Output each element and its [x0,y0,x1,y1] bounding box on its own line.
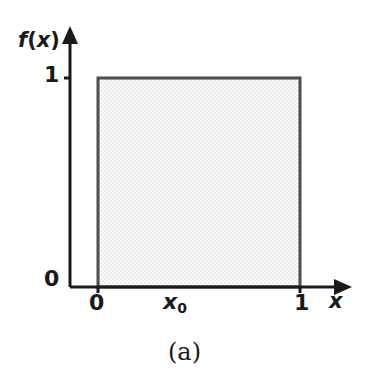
x-tick-label-1: 1 [294,292,309,314]
y-axis-label-function: f [18,28,27,52]
plot-canvas [0,0,369,384]
shaded-region-texture [100,80,298,285]
x-tick-label-x0-subscript: 0 [177,300,187,316]
y-tick-label-1: 1 [44,64,59,86]
x-axis-label: x [329,291,343,312]
figure-caption: (a) [0,340,369,364]
x-tick-label-x0-base: x [163,289,177,314]
x-tick-label-x0: x0 [163,291,187,313]
y-axis-arrowhead [62,26,78,44]
y-axis-label: f(x) [18,30,60,51]
y-tick-label-0: 0 [44,268,59,290]
y-axis-label-close-paren: ) [50,28,60,52]
x-tick-label-0: 0 [89,292,104,314]
figure-container: f(x) x 1 0 0 x0 1 (a) [0,0,369,384]
y-axis-label-variable: x [37,28,51,52]
y-axis-label-open-paren: ( [27,28,37,52]
